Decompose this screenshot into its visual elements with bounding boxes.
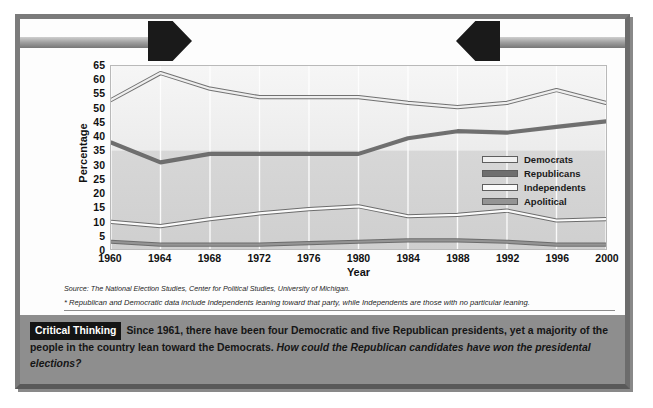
ribbon-tail-left xyxy=(20,37,165,48)
legend-label: Independents xyxy=(524,182,586,193)
legend-item: Independents xyxy=(482,181,608,194)
y-tick-label: 35 xyxy=(75,145,105,156)
legend-item: Democrats xyxy=(482,153,608,166)
figure-card: Political Party Identification* Percenta… xyxy=(15,14,630,389)
legend-item: Republicans xyxy=(482,167,608,180)
ribbon-tail-right xyxy=(480,37,625,48)
x-tick-label: 1980 xyxy=(336,252,382,264)
figure-inner: Political Party Identification* Percenta… xyxy=(20,19,625,384)
y-tick-label: 15 xyxy=(75,202,105,213)
critical-thinking-tag: Critical Thinking xyxy=(30,322,121,340)
source-footnote: * Republican and Democratic data include… xyxy=(64,297,616,308)
legend-label: Republicans xyxy=(524,168,581,179)
y-tick-label: 60 xyxy=(75,74,105,85)
critical-thinking-panel: Critical ThinkingSince 1961, there have … xyxy=(20,315,625,384)
y-tick-label: 55 xyxy=(75,88,105,99)
legend-swatch xyxy=(482,170,518,177)
source-divider xyxy=(64,310,615,311)
y-tick-label: 50 xyxy=(75,102,105,113)
x-tick-label: 1976 xyxy=(286,252,332,264)
x-tick-label: 1988 xyxy=(435,252,481,264)
x-axis-title: Year xyxy=(110,266,607,278)
x-tick-label: 1964 xyxy=(137,252,183,264)
y-tick-label: 30 xyxy=(75,159,105,170)
page-title: Political Party Identification* xyxy=(203,31,446,52)
chart-block: Percentage 65605550454035302520151050 19… xyxy=(20,65,625,280)
legend-label: Democrats xyxy=(524,154,573,165)
legend-swatch xyxy=(482,198,518,205)
y-tick-label: 40 xyxy=(75,131,105,142)
legend-label: Apolitical xyxy=(524,196,567,207)
x-tick-label: 1972 xyxy=(236,252,282,264)
critical-thinking-text: Critical ThinkingSince 1961, there have … xyxy=(30,322,613,371)
legend-item: Apolitical xyxy=(482,195,608,208)
y-tick-label: 10 xyxy=(75,216,105,227)
chart-legend: DemocratsRepublicansIndependentsApolitic… xyxy=(482,153,608,209)
y-tick-label: 25 xyxy=(75,174,105,185)
x-tick-label: 1984 xyxy=(385,252,431,264)
y-axis-ticks: 65605550454035302520151050 xyxy=(75,65,105,250)
x-tick-label: 1960 xyxy=(87,252,133,264)
legend-swatch xyxy=(482,156,518,163)
legend-swatch xyxy=(482,184,518,191)
source-block: Source: The National Election Studies, C… xyxy=(64,284,616,309)
title-ribbon: Political Party Identification* xyxy=(20,21,625,61)
x-tick-label: 1992 xyxy=(485,252,531,264)
source-citation: Source: The National Election Studies, C… xyxy=(64,284,616,294)
x-tick-label: 2000 xyxy=(584,252,630,264)
y-tick-label: 65 xyxy=(75,60,105,71)
x-tick-label: 1968 xyxy=(186,252,232,264)
y-tick-label: 20 xyxy=(75,188,105,199)
title-banner: Political Party Identification* xyxy=(148,21,500,61)
y-tick-label: 45 xyxy=(75,117,105,128)
y-tick-label: 5 xyxy=(75,231,105,242)
x-tick-label: 1996 xyxy=(534,252,580,264)
